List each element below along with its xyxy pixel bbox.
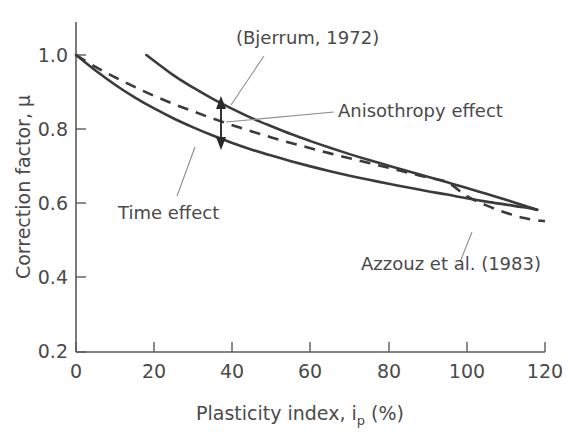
curve-azzouz-1983 — [76, 55, 545, 221]
leader-lines — [177, 56, 472, 262]
annotation-azzouz: Azzouz et al. (1983) — [361, 253, 541, 274]
x-tick-label-0: 0 — [70, 360, 82, 382]
annotation-anisotropy: Anisothropy effect — [338, 100, 503, 121]
x-axis-title-subscript: p — [357, 413, 365, 428]
x-tick-marks — [76, 342, 545, 352]
y-tick-label-0.4: 0.4 — [38, 266, 68, 288]
y-tick-labels: 1.0 0.8 0.6 0.4 0.2 — [38, 44, 68, 362]
x-tick-label-40: 40 — [220, 360, 244, 382]
x-axis-title: Plasticity index, ip (%) — [196, 402, 404, 428]
x-tick-labels: 0 20 40 60 80 100 120 — [70, 360, 563, 382]
x-tick-label-20: 20 — [142, 360, 166, 382]
leader-line-bjerrum — [231, 56, 264, 105]
x-tick-label-80: 80 — [377, 360, 401, 382]
chart-svg: 1.0 0.8 0.6 0.4 0.2 0 20 40 60 80 100 12… — [0, 0, 568, 435]
curve-lower-bound — [76, 55, 537, 210]
y-tick-label-0.6: 0.6 — [38, 192, 68, 214]
x-tick-label-100: 100 — [449, 360, 485, 382]
x-tick-label-120: 120 — [527, 360, 563, 382]
chart-figure: 1.0 0.8 0.6 0.4 0.2 0 20 40 60 80 100 12… — [0, 0, 568, 435]
x-axis-title-suffix: (%) — [365, 402, 404, 424]
x-axis-title-main: Plasticity index, i — [196, 402, 357, 424]
y-tick-label-1.0: 1.0 — [38, 44, 68, 66]
y-axis-title: Correction factor, μ — [12, 95, 34, 279]
axes — [76, 22, 545, 352]
annotation-time-effect: Time effect — [117, 202, 219, 223]
y-tick-label-0.8: 0.8 — [38, 118, 68, 140]
annotation-bjerrum: (Bjerrum, 1972) — [236, 27, 379, 48]
leader-line-time — [177, 147, 195, 196]
y-tick-marks — [76, 55, 86, 352]
data-curves — [76, 55, 545, 221]
arrow-head-down — [216, 137, 226, 150]
x-tick-label-60: 60 — [298, 360, 322, 382]
y-tick-label-0.2: 0.2 — [38, 340, 68, 362]
annotation-labels: (Bjerrum, 1972) Anisothropy effect Time … — [117, 27, 541, 274]
